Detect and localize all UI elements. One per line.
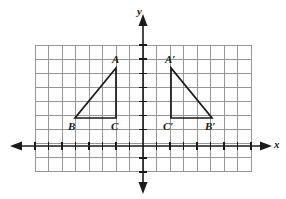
- vertex-label-B-prime: B′: [205, 121, 215, 132]
- x-axis-label: x: [274, 139, 280, 150]
- y-axis-label: y: [137, 6, 142, 17]
- triangle-abc: [75, 68, 116, 118]
- axes-group: [10, 14, 272, 194]
- vertex-label-A: A: [112, 54, 119, 65]
- triangle-a-prime-b-prime-c-prime: [171, 68, 212, 118]
- vertex-label-B: B: [68, 121, 75, 132]
- figure-canvas: [0, 0, 286, 199]
- x-axis-right-arrow: [260, 142, 272, 151]
- vertex-label-C: C: [111, 121, 118, 132]
- vertex-label-A-prime: A′: [165, 54, 175, 65]
- x-axis-left-arrow: [10, 142, 22, 151]
- coordinate-plane-figure: A B C A′ C′ B′ x y: [0, 0, 286, 199]
- y-axis-down-arrow: [139, 182, 148, 194]
- vertex-label-C-prime: C′: [163, 121, 173, 132]
